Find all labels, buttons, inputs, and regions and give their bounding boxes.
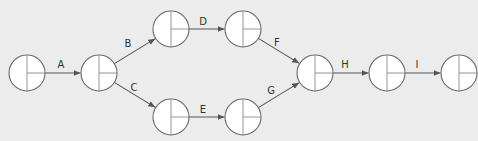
activity-label: B <box>125 38 132 49</box>
event-node-n1 <box>9 55 45 91</box>
activity-label: I <box>416 59 419 70</box>
event-node-n4 <box>225 11 261 47</box>
activity-label: F <box>274 37 280 48</box>
activity-arrow-g <box>258 83 299 108</box>
event-node-n7 <box>297 55 333 91</box>
activity-label: G <box>267 85 275 96</box>
event-node-n6 <box>225 99 261 135</box>
activity-label: H <box>341 59 349 70</box>
activity-label: E <box>200 104 206 115</box>
activity-arrow-b <box>114 39 155 64</box>
event-node-n8 <box>369 55 405 91</box>
activity-label: D <box>199 16 207 27</box>
event-node-n2 <box>81 55 117 91</box>
network-diagram: ABCDEFGHI <box>0 0 478 141</box>
activity-label: C <box>131 82 138 93</box>
event-node-n3 <box>153 11 189 47</box>
activity-network-canvas: ABCDEFGHI <box>0 0 478 141</box>
event-node-n5 <box>153 99 189 135</box>
activity-label: A <box>58 59 65 70</box>
event-node-n9 <box>441 55 477 91</box>
